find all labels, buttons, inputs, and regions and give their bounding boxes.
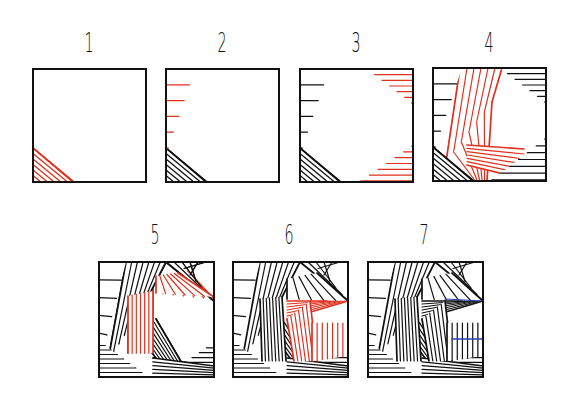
step-7-drawing xyxy=(367,261,484,378)
step-label-5: 5 xyxy=(144,222,166,248)
step-6-drawing xyxy=(232,261,349,378)
step-1-drawing xyxy=(32,68,148,183)
step-label-4: 4 xyxy=(478,30,500,56)
step-label-6: 6 xyxy=(278,222,300,248)
step-4-drawing xyxy=(432,67,547,182)
step-3-drawing xyxy=(299,68,415,183)
step-label-3: 3 xyxy=(345,30,367,56)
step-label-7: 7 xyxy=(413,222,435,248)
step-2-drawing xyxy=(165,68,281,183)
step-label-1: 1 xyxy=(78,30,100,56)
step-label-2: 2 xyxy=(211,30,233,56)
step-5-drawing xyxy=(98,261,215,378)
